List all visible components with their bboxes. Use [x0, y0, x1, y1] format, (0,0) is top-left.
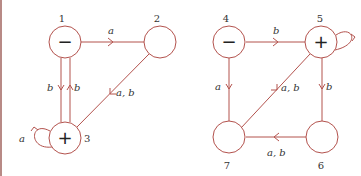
edge-6-7: a, b	[246, 133, 306, 158]
state-label-5: 5	[317, 13, 323, 24]
edge-label-4-7: a	[215, 81, 221, 92]
state-5[interactable]: + 5	[305, 13, 337, 58]
state-label-1: 1	[59, 13, 65, 24]
edge-label-1-2: a	[108, 25, 114, 36]
edge-2-3: a, b	[77, 54, 149, 127]
state-label-2: 2	[154, 13, 160, 24]
edge-label-5-6: b	[326, 81, 332, 92]
edge-7-5: a, b	[241, 54, 310, 128]
state-6[interactable]: 6	[306, 121, 338, 171]
edge-label-6-7: a, b	[267, 147, 286, 158]
edge-4-5: b	[246, 25, 305, 46]
state-2[interactable]: 2	[144, 13, 176, 58]
state-label-3: 3	[84, 133, 90, 144]
edge-label-3-3: a	[19, 133, 25, 144]
state-label-4: 4	[223, 13, 229, 24]
state-1[interactable]: − 1	[49, 13, 81, 58]
initial-mark: −	[221, 31, 236, 52]
left-automaton: a b b a, b a − 1	[19, 13, 176, 154]
edge-label-7-5: a, b	[281, 82, 300, 93]
edge-5-5	[335, 32, 355, 50]
edge-4-7: a	[215, 58, 232, 121]
edge-5-6: b	[319, 58, 332, 121]
state-3[interactable]: + 3	[49, 122, 90, 154]
state-7[interactable]: 7	[213, 121, 245, 171]
edge-label-2-3: a, b	[116, 87, 135, 98]
automata-diagram: a b b a, b a − 1	[0, 0, 361, 176]
final-mark: +	[57, 127, 72, 148]
state-label-7: 7	[224, 160, 230, 171]
initial-mark: −	[57, 31, 72, 52]
right-automaton: b a b a, b a, b	[213, 13, 355, 171]
state-label-6: 6	[318, 160, 324, 171]
edge-label-4-5: b	[273, 25, 279, 36]
edge-1-3: b	[47, 58, 64, 122]
final-mark: +	[313, 31, 328, 52]
edge-3-3: a	[19, 127, 52, 147]
state-4[interactable]: − 4	[213, 13, 245, 58]
edge-1-2: a	[81, 25, 144, 46]
edge-label-3-1: b	[74, 82, 80, 93]
edge-label-1-3: b	[47, 82, 53, 93]
edge-3-1: b	[67, 58, 80, 122]
